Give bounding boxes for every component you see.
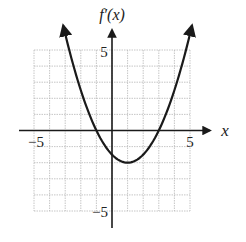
y-tick-max: 5 — [100, 44, 108, 60]
y-tick-min: −5 — [92, 204, 108, 220]
x-axis-label: x — [220, 121, 229, 140]
derivative-curve — [63, 26, 192, 163]
y-axis-label: f′(x) — [99, 6, 125, 24]
x-tick-min: −5 — [28, 134, 44, 150]
derivative-graph: f′(x) x −5 5 5 −5 — [0, 0, 246, 242]
x-tick-max: 5 — [186, 134, 194, 150]
